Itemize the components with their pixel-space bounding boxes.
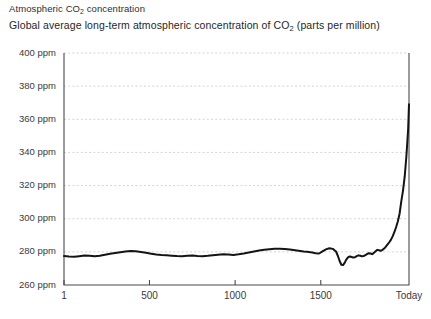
y-axis-tick-label: 400 ppm (19, 47, 56, 58)
co2-chart: Atmospheric CO2 concentration Global ave… (0, 0, 431, 319)
x-axis-tick-label: Today (396, 290, 423, 301)
x-axis-tick-label: 1 (61, 290, 67, 301)
x-axis-ticks (64, 280, 321, 285)
plot-area: 260 ppm280 ppm300 ppm320 ppm340 ppm360 p… (0, 0, 431, 319)
y-axis-tick-label: 380 ppm (19, 80, 56, 91)
data-series (64, 104, 409, 265)
y-axis-tick-label: 300 ppm (19, 212, 56, 223)
y-axis-tick-label: 360 ppm (19, 113, 56, 124)
y-axis-tick-label: 260 ppm (19, 279, 56, 290)
x-axis-tick-label: 1500 (310, 290, 333, 301)
x-axis-tick-label: 1000 (224, 290, 247, 301)
gridlines (64, 53, 409, 252)
y-axis-tick-label: 280 ppm (19, 245, 56, 256)
axis-frame (64, 53, 409, 285)
x-axis-tick-label: 500 (141, 290, 158, 301)
data-line (64, 104, 409, 265)
y-axis-tick-label: 340 ppm (19, 146, 56, 157)
y-axis-tick-label: 320 ppm (19, 179, 56, 190)
x-axis-labels: 150010001500Today (61, 290, 422, 301)
y-axis-labels: 260 ppm280 ppm300 ppm320 ppm340 ppm360 p… (19, 47, 56, 290)
